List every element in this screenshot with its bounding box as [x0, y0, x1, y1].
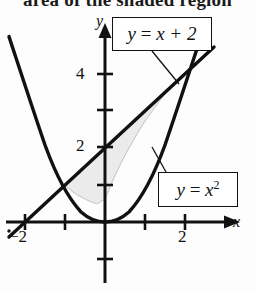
x-axis-label: x	[233, 213, 240, 231]
tick-label-x-neg2: −2	[9, 227, 27, 247]
parabola-eq-lhs: y	[176, 179, 184, 200]
tick-label-y-4: 4	[76, 64, 85, 84]
parabola-equation-text: y = x2	[176, 179, 219, 201]
callout-box-parabola-equation: y = x2	[158, 172, 238, 207]
tick-label-x-2: 2	[178, 227, 187, 247]
line-eq-rhs: x + 2	[156, 23, 196, 44]
parabola-eq-exponent: 2	[214, 177, 220, 191]
callout-box-line-equation: y = x + 2	[112, 17, 212, 51]
line-eq-operator: =	[141, 23, 152, 44]
parabola-eq-operator: =	[190, 179, 201, 200]
tick-label-y-2: 2	[76, 136, 85, 156]
leader-line-to-line	[152, 51, 179, 84]
line-curve	[9, 47, 214, 237]
line-equation-text: y = x + 2	[128, 23, 197, 45]
line-eq-lhs: y	[128, 23, 136, 44]
y-axis-label: y	[96, 12, 103, 30]
figure-root: area of the shaded region y x 4	[0, 0, 255, 293]
parabola-eq-rhs: x	[205, 179, 213, 200]
